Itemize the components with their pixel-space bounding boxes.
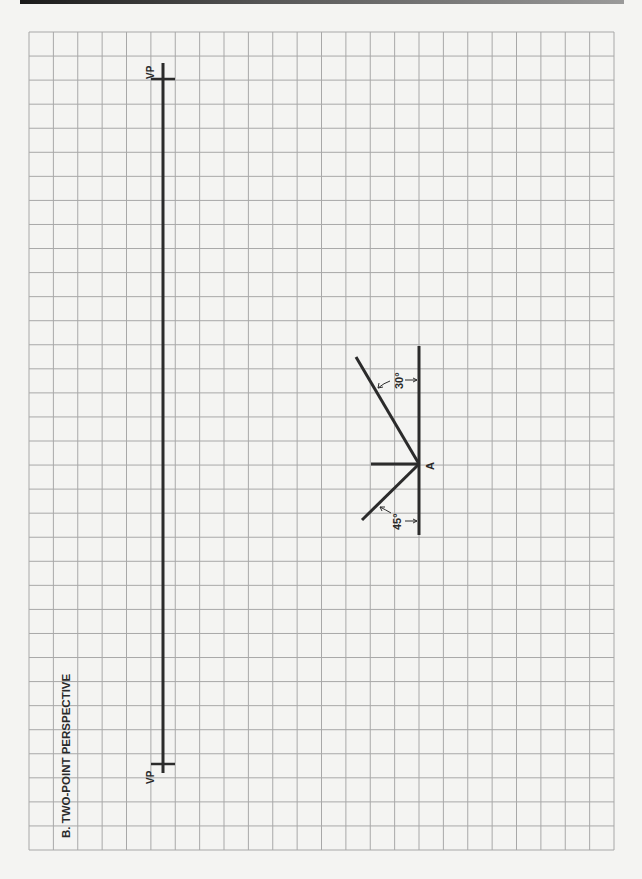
vanishing-point-top-label: VP bbox=[145, 66, 156, 79]
section-title: B. TWO-POINT PERSPECTIVE bbox=[60, 674, 72, 838]
perspective-grid-diagram bbox=[0, 0, 642, 879]
grid-paper bbox=[29, 32, 614, 850]
point-a-label: A bbox=[424, 462, 436, 470]
line-30-degree bbox=[356, 357, 419, 464]
vanishing-point-bottom-label: VP bbox=[145, 771, 156, 784]
horizon-line-group bbox=[151, 63, 175, 773]
angle-30-label: 30° bbox=[393, 372, 405, 389]
angle-45-label: 45° bbox=[391, 513, 403, 530]
